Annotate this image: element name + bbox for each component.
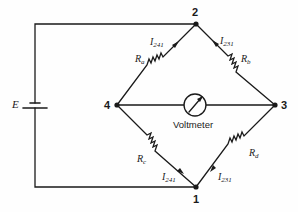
circuit-canvas: 2 4 3 1 E Ra Rb Rc Rd I241 I231 I241 I23… (0, 0, 298, 212)
node-label-1: 1 (193, 193, 199, 205)
resistor-ra (117, 24, 196, 105)
resistor-rb (196, 24, 275, 105)
current-label-bottom-right: I231 (217, 171, 232, 184)
resistor-label-rb: Rb (240, 53, 251, 66)
node-3-dot (272, 102, 277, 107)
source-label: E (11, 98, 19, 110)
node-label-2: 2 (192, 6, 198, 18)
node-label-3: 3 (281, 99, 287, 111)
voltmeter-label: Voltmeter (173, 119, 213, 130)
node-label-4: 4 (104, 99, 111, 111)
resistor-label-rc: Rc (136, 153, 147, 166)
current-label-top-right: I231 (219, 35, 234, 48)
current-label-bottom-left: I241 (161, 171, 176, 184)
node-1-dot (193, 184, 198, 189)
resistor-label-ra: Ra (134, 53, 145, 66)
wheatstone-bridge-diagram: 2 4 3 1 E Ra Rb Rc Rd I241 I231 I241 I23… (0, 0, 298, 212)
node-4-dot (114, 102, 119, 107)
resistor-rd (196, 105, 275, 187)
node-2-dot (193, 21, 198, 26)
resistor-rc (117, 105, 196, 187)
resistor-label-rd: Rd (248, 147, 259, 160)
current-label-top-left: I241 (149, 36, 164, 49)
top-wire (35, 24, 196, 103)
